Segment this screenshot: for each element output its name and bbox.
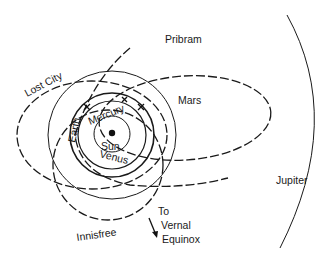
orbit-diagram: Pribram Lost City Mars Mercury Sun Venus… (0, 0, 325, 261)
direction-label-line1: To (158, 205, 169, 217)
vernal-equinox-arrow-icon (149, 218, 158, 238)
pribram-orbit (96, 70, 273, 166)
venus-label: Venus (99, 147, 130, 166)
direction-label-line3: Equinox (162, 233, 201, 245)
earth-label: Earth (65, 116, 82, 143)
innisfree-label: Innisfree (76, 225, 118, 243)
sun-dot (109, 130, 115, 136)
pribram-label: Pribram (165, 33, 202, 45)
direction-label-line2: Vernal (161, 219, 191, 231)
jupiter-label: Jupiter (276, 174, 308, 186)
mars-label: Mars (178, 94, 201, 106)
jupiter-orbit (280, 15, 314, 248)
mercury-label: Mercury (86, 101, 126, 127)
